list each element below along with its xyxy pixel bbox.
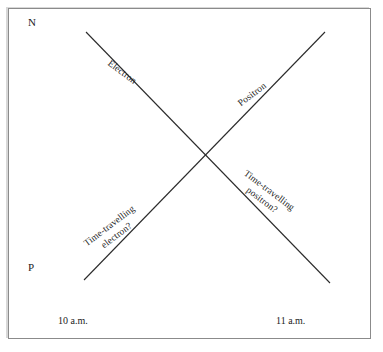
crossing-worldlines-svg [0, 0, 383, 352]
time-label-right: 11 a.m. [276, 315, 305, 326]
axis-marker-n: N [28, 16, 36, 28]
time-label-left: 10 a.m. [58, 315, 88, 326]
axis-marker-p: P [28, 261, 34, 273]
diagram-plot-area [0, 0, 383, 352]
figure-canvas: N P 10 a.m. 11 a.m. Electron Positron Ti… [0, 0, 383, 352]
